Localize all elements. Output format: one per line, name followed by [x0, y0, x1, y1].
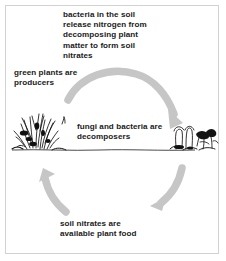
label-soil-nitrates-plant-food: soil nitrates are available plant food: [60, 219, 170, 239]
nitrogen-cycle-diagram: bacteria in the soil release nitrogen fr…: [0, 0, 226, 261]
ground-line: [12, 150, 195, 151]
label-green-plants-producers: green plants are producers: [14, 68, 114, 88]
label-fungi-bacteria-decomposers: fungi and bacteria are decomposers: [77, 122, 187, 142]
label-bacteria-release-nitrogen: bacteria in the soil release nitrogen fr…: [63, 10, 183, 61]
grass-clump-sketch: [12, 114, 66, 150]
